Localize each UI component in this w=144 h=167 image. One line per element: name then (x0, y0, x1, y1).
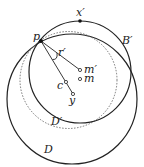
label-r-prime: r′ (58, 46, 66, 59)
point-m-prime (78, 68, 81, 71)
angle-arc-r-prime (53, 53, 58, 60)
label-y: y (68, 94, 76, 107)
point-x-prime (78, 19, 82, 23)
label-d: D (43, 143, 53, 156)
label-c: c (57, 79, 63, 92)
point-m (78, 77, 81, 80)
label-m: m (84, 72, 94, 85)
label-b-prime: B′ (121, 34, 133, 47)
point-c (64, 80, 67, 83)
geometry-diagram: x′ p B′ r′ m′ m c y D′ D (0, 0, 144, 167)
label-d-prime: D′ (50, 115, 63, 128)
diagram-svg: x′ p B′ r′ m′ m c y D′ D (0, 0, 144, 167)
label-x-prime: x′ (76, 6, 85, 19)
label-p: p (33, 30, 40, 43)
